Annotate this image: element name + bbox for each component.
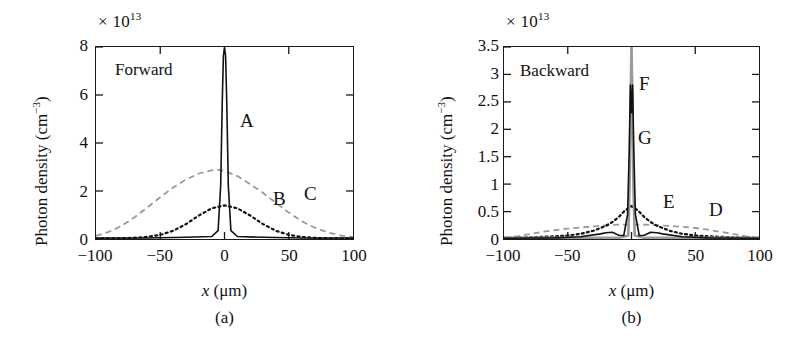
panel-b-ytick-4: 2 <box>455 119 499 139</box>
panel-a-caption: (a) <box>215 308 234 328</box>
panel-a-xtick-1: −50 <box>146 246 173 266</box>
panel-a-annotation-A: A <box>240 110 254 132</box>
panel-b-annotation-F: F <box>639 73 650 95</box>
panel-b-ytick-2: 1 <box>455 175 499 195</box>
panel-b-xtick-1: −50 <box>554 246 581 266</box>
panel-b-xtick-2: 0 <box>627 246 636 266</box>
panel-a-ytick-3: 6 <box>62 85 88 105</box>
panel-b-ytick-7: 3.5 <box>455 36 499 56</box>
panel-b-xtick-0: −100 <box>485 246 520 266</box>
panel-b-inside-label: Backward <box>520 61 589 81</box>
panel-b-ytick-5: 2.5 <box>455 91 499 111</box>
panel-b-xtick-4: 100 <box>747 246 773 266</box>
panel-a-xtick-4: 100 <box>341 246 367 266</box>
panel-b-ytick-1: 0.5 <box>455 202 499 222</box>
panel-a-y-axis-title: Photon density (cm−3) <box>30 96 52 246</box>
panel-a-xtick-2: 0 <box>220 246 229 266</box>
panel-b-ytick-3: 1.5 <box>455 147 499 167</box>
panel-b-annotation-D: D <box>709 199 723 221</box>
panel-b-y-axis-title: Photon density (cm−3) <box>435 96 457 246</box>
panel-b-annotation-G: G <box>638 127 652 149</box>
panel-a-xtick-0: −100 <box>77 246 112 266</box>
panel-a-x-axis-title: x (μm) <box>202 281 247 301</box>
panel-b-caption: (b) <box>622 308 642 328</box>
panel-b-annotation-E: E <box>663 191 675 213</box>
panel-b-y-unit: × 1013 <box>506 10 550 32</box>
panel-a: Photon density (cm−3) × 1013 0 2 4 6 8 <box>0 0 403 346</box>
panel-a-xtick-3: 50 <box>281 246 298 266</box>
figure-root: Photon density (cm−3) × 1013 0 2 4 6 8 <box>0 0 807 346</box>
panel-b: Photon density (cm−3) × 1013 0 0.5 1 1.5… <box>403 0 806 346</box>
panel-b-x-axis-title: x (μm) <box>609 281 654 301</box>
panel-a-y-unit: × 1013 <box>98 10 142 32</box>
panel-a-annotation-B: B <box>273 188 286 210</box>
panel-b-ytick-6: 3 <box>455 64 499 84</box>
panel-a-inside-label: Forward <box>115 60 173 80</box>
panel-a-annotation-C: C <box>304 183 317 205</box>
panel-a-ytick-1: 2 <box>62 182 88 202</box>
panel-a-ytick-4: 8 <box>62 36 88 56</box>
panel-b-xtick-3: 50 <box>687 246 704 266</box>
panel-a-ytick-2: 4 <box>62 133 88 153</box>
